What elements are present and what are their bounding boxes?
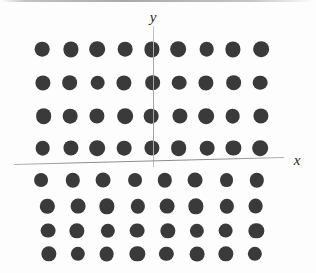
- lattice-dot: [219, 246, 234, 261]
- lattice-dot: [225, 42, 240, 57]
- lattice-dot: [40, 199, 54, 213]
- lattice-dot: [129, 223, 144, 238]
- figure-top-border: [0, 0, 316, 2]
- lattice-dot: [63, 42, 78, 57]
- lattice-dot: [199, 42, 214, 57]
- lattice-dot: [96, 173, 111, 188]
- lattice-dot: [131, 199, 145, 213]
- lattice-dot: [144, 109, 159, 124]
- lattice-dot: [253, 108, 268, 123]
- lattice-dot: [69, 223, 84, 238]
- lattice-dot: [190, 247, 205, 262]
- lattice-dot: [101, 224, 115, 238]
- lattice-dot: [226, 141, 241, 156]
- lattice-dot: [89, 42, 105, 58]
- lattice-dot: [159, 247, 173, 261]
- lattice-dot: [172, 75, 187, 90]
- lattice-dot: [159, 199, 174, 214]
- lattice-dot: [118, 42, 133, 57]
- lattice-dot: [249, 173, 263, 187]
- lattice-dot: [249, 223, 264, 238]
- lattice-dot: [219, 199, 233, 213]
- lattice-dot: [198, 75, 213, 90]
- lattice-dot: [144, 42, 159, 57]
- x-axis-line: [14, 157, 284, 165]
- lattice-dot: [71, 199, 86, 214]
- lattice-dot: [187, 173, 202, 188]
- lattice-figure: y x: [0, 0, 316, 273]
- lattice-dot: [253, 75, 268, 90]
- lattice-dot: [220, 173, 234, 187]
- lattice-dot: [99, 199, 114, 214]
- lattice-dot: [90, 75, 105, 90]
- lattice-dot: [248, 199, 263, 214]
- lattice-dot: [188, 199, 203, 214]
- lattice-dot: [248, 247, 262, 261]
- lattice-dot: [158, 173, 172, 187]
- lattice-dot: [117, 141, 132, 156]
- lattice-dot: [170, 42, 186, 58]
- lattice-dot: [63, 109, 78, 124]
- lattice-dot: [198, 108, 214, 124]
- lattice-dot: [41, 246, 56, 261]
- lattice-dot: [35, 75, 50, 90]
- x-axis-label: x: [294, 152, 301, 169]
- lattice-dot: [41, 223, 56, 238]
- lattice-dot: [71, 247, 85, 261]
- lattice-dot: [63, 141, 78, 156]
- lattice-dot: [218, 223, 233, 238]
- lattice-dot: [62, 75, 78, 91]
- lattice-dot: [171, 140, 187, 156]
- lattice-dot: [117, 75, 132, 90]
- lattice-dot: [226, 75, 242, 91]
- lattice-dot: [99, 247, 114, 262]
- lattice-dot: [225, 109, 240, 124]
- lattice-dot: [66, 173, 80, 187]
- lattice-dot: [189, 224, 203, 238]
- lattice-dot: [130, 246, 145, 261]
- lattice-dot: [200, 141, 215, 156]
- lattice-dot: [90, 140, 106, 156]
- lattice-dot: [35, 141, 50, 156]
- lattice-dot: [252, 140, 268, 156]
- lattice-dot: [35, 42, 50, 57]
- lattice-dot: [34, 173, 48, 187]
- lattice-dot: [89, 108, 104, 123]
- lattice-dot: [253, 42, 269, 58]
- lattice-dot: [172, 108, 187, 123]
- lattice-dot: [117, 108, 133, 124]
- lattice-dot: [128, 173, 142, 187]
- y-axis-label: y: [150, 9, 157, 26]
- lattice-dot: [36, 108, 52, 124]
- lattice-dot: [160, 223, 175, 238]
- y-axis-line: [153, 26, 154, 167]
